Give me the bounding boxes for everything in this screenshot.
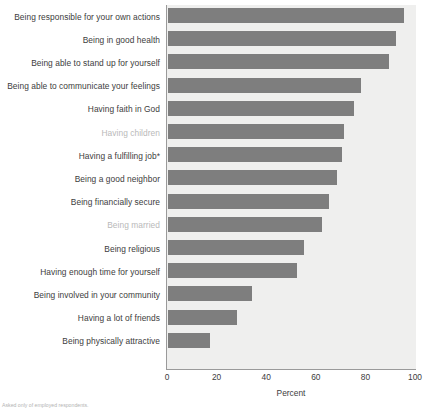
category-label: Being religious: [0, 244, 160, 254]
category-label: Being involved in your community: [0, 290, 160, 300]
x-tick-label: 20: [212, 372, 221, 383]
bar: [168, 194, 329, 209]
bar: [168, 170, 337, 185]
bar: [168, 101, 354, 116]
category-label: Being married: [0, 220, 160, 230]
bar: [168, 78, 361, 93]
category-label: Being financially secure: [0, 197, 160, 207]
category-label: Having a lot of friends: [0, 313, 160, 323]
bar: [168, 54, 389, 69]
bar: [168, 263, 297, 278]
bar: [168, 8, 404, 23]
category-label: Being in good health: [0, 35, 160, 45]
x-axis-tick-labels: 020406080100: [166, 372, 416, 384]
category-label: Being responsible for your own actions: [0, 12, 160, 22]
category-axis-labels: Being responsible for your own actionsBe…: [0, 6, 160, 354]
chart-footnote: Asked only of employed respondents.: [2, 402, 89, 409]
bar: [168, 310, 237, 325]
category-label: Having a fulfilling job*: [0, 151, 160, 161]
category-label: Having faith in God: [0, 104, 160, 114]
category-label: Being able to stand up for yourself: [0, 58, 160, 68]
category-label: Being physically attractive: [0, 336, 160, 346]
category-label: Having children: [0, 128, 160, 138]
x-tick-label: 60: [311, 372, 320, 383]
bar: [168, 124, 344, 139]
category-label: Having enough time for yourself: [0, 267, 160, 277]
plot-area: [166, 5, 416, 370]
x-tick-label: 80: [361, 372, 370, 383]
x-axis-title: Percent: [166, 388, 416, 398]
x-tick-label: 0: [165, 372, 170, 383]
bar: [168, 31, 396, 46]
bar: [168, 240, 304, 255]
bar: [168, 147, 342, 162]
category-label: Being a good neighbor: [0, 174, 160, 184]
bar: [168, 286, 252, 301]
category-label: Being able to communicate your feelings: [0, 81, 160, 91]
x-tick-label: 40: [262, 372, 271, 383]
bar: [168, 333, 210, 348]
bars-layer: [167, 5, 416, 369]
x-tick-label: 100: [408, 372, 422, 383]
bar-chart-figure: Being responsible for your own actionsBe…: [0, 0, 428, 414]
bar: [168, 217, 322, 232]
